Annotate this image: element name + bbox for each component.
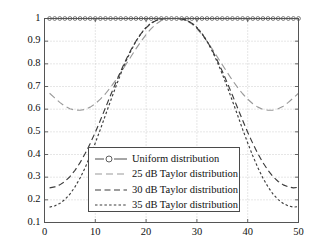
x-tick-label: 30 (182, 227, 212, 238)
x-tick-label: 20 (131, 227, 161, 238)
legend-swatch-uniform-icon (94, 153, 128, 165)
y-tick-label: 0.4 (27, 149, 40, 160)
y-tick-label: 0.7 (27, 81, 40, 92)
y-tick-label: 0.2 (27, 194, 40, 205)
y-tick-label: 0.8 (27, 58, 40, 69)
legend-label-taylor-35db: 35 dB Taylor distribution (128, 200, 238, 211)
x-tick-label: 40 (233, 227, 263, 238)
legend-swatch-taylor-25db-icon (94, 168, 128, 180)
legend-item-taylor-25db: 25 dB Taylor distribution (94, 167, 235, 183)
y-tick-label: 1 (35, 13, 40, 24)
y-tick-label: 0.5 (27, 126, 40, 137)
legend-swatch-taylor-35db-icon (94, 199, 128, 211)
legend-swatch-taylor-30db-icon (94, 184, 128, 196)
chart-legend: Uniform distribution 25 dB Taylor distri… (88, 147, 240, 212)
legend-label-uniform: Uniform distribution (128, 154, 219, 165)
y-tick-label: 0.9 (27, 35, 40, 46)
y-tick-label: 0.1 (27, 217, 40, 228)
legend-label-taylor-30db: 30 dB Taylor distribution (128, 185, 238, 196)
legend-item-taylor-30db: 30 dB Taylor distribution (94, 182, 235, 198)
y-tick-label: 0.6 (27, 103, 40, 114)
y-tick-label: 0.3 (27, 171, 40, 182)
x-tick-label: 10 (80, 227, 110, 238)
x-tick-label: 0 (30, 227, 60, 238)
x-tick-label: 50 (284, 227, 314, 238)
legend-label-taylor-25db: 25 dB Taylor distribution (128, 169, 238, 180)
legend-item-taylor-35db: 35 dB Taylor distribution (94, 198, 235, 214)
legend-item-uniform: Uniform distribution (94, 151, 235, 167)
figure-chart: 0.10.20.30.40.50.60.70.80.91 01020304050… (0, 0, 314, 250)
